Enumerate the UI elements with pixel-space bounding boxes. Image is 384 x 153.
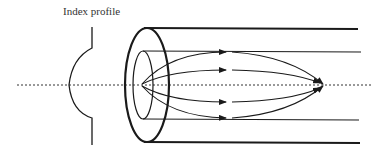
core-top-edge (143, 51, 361, 52)
fiber-diagram (0, 0, 384, 153)
index-profile-curve (69, 27, 92, 145)
core-bottom-edge (143, 119, 359, 120)
cladding-top-edge (144, 28, 358, 29)
inner-lower-ray (142, 86, 226, 102)
cladding-bottom-edge (144, 142, 360, 143)
